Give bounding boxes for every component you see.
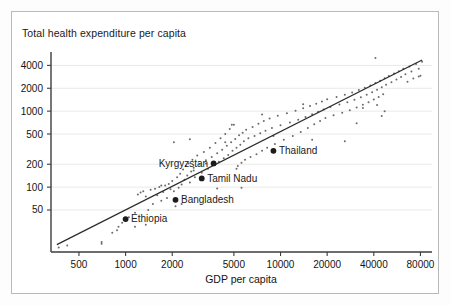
scatter-point (353, 99, 355, 101)
scatter-point (179, 173, 181, 175)
scatter-point (311, 139, 313, 141)
scatter-point (307, 127, 309, 129)
scatter-point (381, 86, 383, 88)
scatter-point (321, 100, 323, 102)
x-tick-label: 80000 (407, 259, 435, 270)
x-tick-label: 1000 (114, 259, 137, 270)
scatter-point (211, 156, 213, 158)
scatter-point (189, 138, 191, 140)
scatter-point (154, 188, 156, 190)
scatter-point (233, 124, 235, 126)
scatter-point (186, 175, 188, 177)
scatter-point (261, 114, 263, 116)
scatter-point (254, 135, 256, 137)
scatter-point (223, 157, 225, 159)
scatter-point (326, 98, 328, 100)
annotated-point-label: Kyrgyzstan (159, 158, 208, 169)
scatter-point (232, 150, 234, 152)
y-tick-label: 2000 (21, 83, 44, 94)
annotated-point-marker (211, 161, 217, 167)
scatter-point (286, 112, 288, 114)
scatter-point (300, 131, 302, 133)
scatter-point (190, 171, 192, 173)
scatter-point (170, 188, 172, 190)
scatter-point (245, 129, 247, 131)
x-axis-ticks: 50010002000500010000200004000080000 (71, 252, 435, 270)
scatter-point (178, 187, 180, 189)
scatter-point (378, 96, 380, 98)
scatter-point (362, 107, 364, 109)
y-tick-label: 200 (26, 159, 43, 170)
scatter-point (194, 176, 196, 178)
scatter-point (371, 91, 373, 93)
scatter-point (203, 151, 205, 153)
scatter-point (358, 89, 360, 91)
scatter-point (344, 140, 346, 142)
scatter-point (336, 96, 338, 98)
y-tick-label: 100 (26, 182, 43, 193)
y-tick-label: 4000 (21, 60, 44, 71)
scatter-point (302, 103, 304, 105)
scatter-point (221, 149, 223, 151)
scatter-point (166, 197, 168, 199)
scatter-point (341, 112, 343, 114)
scatter-point (226, 145, 228, 147)
figure-container: Total health expenditure per capita 5001… (0, 0, 451, 305)
scatter-point (209, 147, 211, 149)
scatter-point (239, 144, 241, 146)
scatter-point (147, 209, 149, 211)
scatter-point (366, 94, 368, 96)
scatter-point (216, 187, 218, 189)
scatter-point (175, 205, 177, 207)
trend-line (57, 60, 422, 245)
scatter-point (224, 141, 226, 143)
scatter-point (121, 222, 123, 224)
scatter-point (227, 154, 229, 156)
scatter-point (182, 169, 184, 171)
scatter-point (181, 184, 183, 186)
scatter-point (277, 115, 279, 117)
scatter-point (315, 103, 317, 105)
scatter-point (171, 180, 173, 182)
scatter-point (274, 143, 276, 145)
scatter-point (368, 101, 370, 103)
scatter-point (351, 91, 353, 93)
scatter-point (58, 247, 60, 249)
scatter-point (231, 124, 233, 126)
scatter-point (241, 162, 243, 164)
scatter-point (418, 76, 420, 78)
annotated-point-marker (173, 197, 179, 203)
y-tick-label: 50 (32, 204, 44, 215)
scatter-point (118, 226, 120, 228)
scatter-point (344, 94, 346, 96)
scatter-point (158, 186, 160, 188)
scatter-point (333, 114, 335, 116)
scatter-point (229, 128, 231, 130)
scatter-point (257, 123, 259, 125)
scatter-point (238, 134, 240, 136)
scatter-point (263, 120, 265, 122)
scatter-point (376, 89, 378, 91)
scatter-point (168, 183, 170, 185)
scatter-point (400, 76, 402, 78)
scatter-point (381, 115, 383, 117)
scatter-point (356, 106, 358, 108)
scatter-point (66, 245, 68, 247)
scatter-point (244, 159, 246, 161)
scatter-point (252, 126, 254, 128)
scatter-point (302, 107, 304, 109)
scatter-point (349, 109, 351, 111)
scatter-point (236, 147, 238, 149)
scatter-point (173, 190, 175, 192)
x-tick-label: 20000 (313, 259, 341, 270)
scatter-point (189, 182, 191, 184)
scatter-point (259, 132, 261, 134)
annotated-point-marker (271, 148, 277, 154)
scatter-point (214, 142, 216, 144)
scatter-point (418, 68, 420, 70)
scatter-point (295, 110, 297, 112)
scatter-point (266, 147, 268, 149)
scatter-point (140, 191, 142, 193)
y-tick-label: 500 (26, 129, 43, 140)
scatter-point (292, 135, 294, 137)
